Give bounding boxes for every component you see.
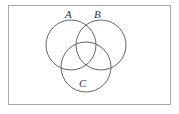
venn-circle-b — [76, 20, 126, 70]
venn-label-b: B — [94, 9, 101, 20]
venn-diagram-figure: A B C — [0, 0, 179, 114]
venn-label-c: C — [79, 78, 86, 89]
venn-label-a: A — [65, 9, 72, 20]
venn-diagram-canvas — [0, 0, 179, 114]
venn-circle-a — [46, 20, 96, 70]
